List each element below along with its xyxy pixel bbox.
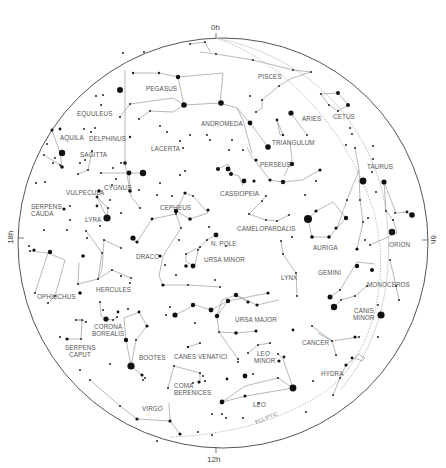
label-leo-minor-2: MINOR xyxy=(254,357,276,364)
label-cepheus: CEPHEUS xyxy=(160,204,191,211)
label-orion: ORION xyxy=(389,241,410,248)
label-serpens-cauda-2: CAUDA xyxy=(31,210,54,217)
label-pegasus: PEGASUS xyxy=(146,85,177,92)
label-coma-2: BERENICES xyxy=(174,389,211,396)
label-monoceros: MONOCEROS xyxy=(367,281,410,288)
label-auriga: AURIGA xyxy=(313,244,338,251)
label-n-pole: N. POLE xyxy=(211,240,237,247)
label-serpens-caput-1: SERPENS xyxy=(65,344,96,351)
label-cassiopeia: CASSIOPEIA xyxy=(220,190,260,197)
label-sagitta: SAGITTA xyxy=(80,151,108,158)
galactic-line xyxy=(216,38,389,390)
label-hercules: HERCULES xyxy=(96,286,131,293)
label-delphinus: DELPHINUS xyxy=(89,135,126,142)
ecliptic-line xyxy=(170,38,381,437)
tick-label-0h: 0h xyxy=(211,23,220,32)
label-bootes: BOOTES xyxy=(139,354,166,361)
label-ophiuchus: OPHIUCHUS xyxy=(37,293,76,300)
label-coma-1: COMA xyxy=(174,382,194,389)
label-vulpecula: VULPECULA xyxy=(66,189,105,196)
label-cetus: CETUS xyxy=(333,113,355,120)
label-lyra: LYRA xyxy=(85,216,102,223)
constellation-labels: PISCES PEGASUS EQUULEUS ANDROMEDA ARIES … xyxy=(31,73,410,425)
label-lynx: LYNX xyxy=(281,274,298,281)
label-equuleus: EQUULEUS xyxy=(77,110,112,118)
label-serpens-caput-2: CAPUT xyxy=(69,351,91,358)
tick-label-6h: 6h xyxy=(429,235,438,244)
label-serpens-cauda-1: SERPENS xyxy=(31,203,62,210)
label-lacerta: LACERTA xyxy=(151,145,181,152)
label-gemini: GEMINI xyxy=(318,269,341,276)
label-camelopardalis: CAMELOPARDALIS xyxy=(237,225,296,232)
label-aquila: AQUILA xyxy=(60,134,84,142)
tick-label-18h: 18h xyxy=(6,231,15,244)
label-canes-venatici: CANES VENATICI xyxy=(174,353,228,360)
label-cancer: CANCER xyxy=(302,339,330,346)
label-aries: ARIES xyxy=(302,115,321,122)
label-ursa-minor: URSA MINOR xyxy=(204,256,245,263)
label-canis-minor-2: MINOR xyxy=(353,314,375,321)
label-leo: LEO xyxy=(253,401,266,408)
label-pisces: PISCES xyxy=(258,73,282,80)
label-perseus: PERSEUS xyxy=(260,161,291,168)
label-andromeda: ANDROMEDA xyxy=(201,120,244,127)
label-corona-borealis-2: BOREALIS xyxy=(92,330,124,337)
label-virgo: VIRGO xyxy=(142,405,163,412)
label-triangulum: TRIANGULUM xyxy=(272,139,315,146)
label-cygnus: CYGNUS xyxy=(104,184,132,191)
label-hydra: HYDRA xyxy=(321,370,344,377)
label-ursa-major: URSA MAJOR xyxy=(235,316,277,323)
label-canis-minor-1: CANIS xyxy=(354,307,374,314)
tick-label-12h: 12h xyxy=(207,455,220,464)
star-chart: 0h 12h 18h 6h xyxy=(0,0,446,468)
label-corona-borealis-1: CORONA xyxy=(94,323,123,330)
label-ecliptic: ECLIPTIC xyxy=(254,410,279,425)
label-taurus: TAURUS xyxy=(367,163,393,170)
label-draco: DRACO xyxy=(136,253,159,260)
label-leo-minor-1: LEO xyxy=(257,350,270,357)
